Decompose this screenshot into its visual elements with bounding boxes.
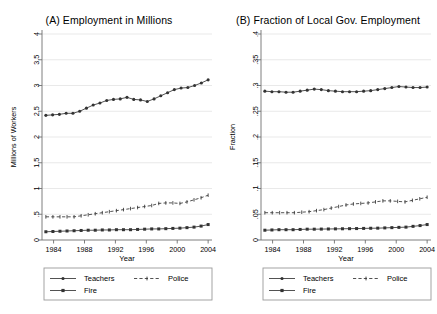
data-point xyxy=(101,228,104,231)
data-point xyxy=(180,87,183,90)
figure-employment-panels: (A) Employment in Millions 0.511.522.533… xyxy=(0,0,437,314)
legend-border xyxy=(263,268,431,300)
data-point xyxy=(108,228,111,231)
data-point xyxy=(390,86,393,89)
legend-label-police: Police xyxy=(168,274,188,283)
y-tick-label-1: .05 xyxy=(251,209,260,219)
data-point xyxy=(404,85,407,88)
data-point xyxy=(185,226,188,229)
data-point xyxy=(173,88,176,91)
y-tick-label-2: .1 xyxy=(251,186,260,192)
data-point xyxy=(327,227,330,230)
x-tick-label-0: 1984 xyxy=(265,245,281,254)
data-point xyxy=(284,91,287,94)
series-fire xyxy=(263,223,428,232)
x-tick-label-1: 1988 xyxy=(296,245,312,254)
y-tick-label-4: 2 xyxy=(32,135,41,139)
data-point xyxy=(419,86,422,89)
series-line xyxy=(46,225,208,232)
data-point xyxy=(263,229,266,232)
data-point xyxy=(299,228,302,231)
data-point xyxy=(362,227,365,230)
legend-marker-teachers xyxy=(61,277,64,280)
panel-a: (A) Employment in Millions 0.511.522.533… xyxy=(0,0,218,314)
data-point xyxy=(341,227,344,230)
data-point xyxy=(159,94,162,97)
data-point xyxy=(207,78,210,81)
data-point xyxy=(362,90,365,93)
y-axis-label: Fraction xyxy=(228,124,237,150)
data-point xyxy=(426,223,429,226)
data-point xyxy=(98,101,101,104)
data-point xyxy=(87,229,90,232)
data-point xyxy=(334,227,337,230)
data-point xyxy=(285,228,288,231)
data-point xyxy=(143,228,146,231)
y-tick-label-3: .15 xyxy=(251,158,260,168)
data-point xyxy=(426,85,429,88)
data-point xyxy=(132,98,135,101)
y-tick-label-6: 3 xyxy=(32,84,41,88)
x-tick-label-2: 1992 xyxy=(107,245,123,254)
data-point xyxy=(348,90,351,93)
data-point xyxy=(125,96,128,99)
data-point xyxy=(397,226,400,229)
y-tick-label-6: .3 xyxy=(251,83,260,89)
legend-label-fire: Fire xyxy=(303,286,316,295)
y-tick-label-8: 4 xyxy=(32,32,41,36)
legend-border xyxy=(44,268,212,300)
data-point xyxy=(327,89,330,92)
panel-a-plot: 0.511.522.533.54198419881992199620002004… xyxy=(0,0,218,314)
data-point xyxy=(92,104,95,107)
data-point xyxy=(139,98,142,101)
x-tick-label-0: 1984 xyxy=(46,245,62,254)
data-point xyxy=(146,100,149,103)
data-point xyxy=(112,98,115,101)
data-point xyxy=(383,226,386,229)
data-point xyxy=(341,90,344,93)
legend-label-police: Police xyxy=(387,274,407,283)
y-tick-label-4: .2 xyxy=(251,134,260,140)
y-tick-label-0: 0 xyxy=(251,238,260,242)
x-tick-label-3: 1996 xyxy=(357,245,373,254)
series-line xyxy=(265,225,427,231)
panel-b-plot: 0.05.1.15.2.25.3.35.41984198819921996200… xyxy=(219,0,437,314)
data-point xyxy=(150,227,153,230)
data-point xyxy=(277,228,280,231)
data-point xyxy=(348,227,351,230)
data-point xyxy=(152,97,155,100)
x-tick-label-4: 2000 xyxy=(388,245,404,254)
data-point xyxy=(71,112,74,115)
data-point xyxy=(292,91,295,94)
x-tick-label-5: 2004 xyxy=(419,245,435,254)
y-tick-label-0: 0 xyxy=(32,238,41,242)
data-point xyxy=(200,81,203,84)
data-point xyxy=(200,225,203,228)
data-point xyxy=(85,107,88,110)
series-teachers xyxy=(263,85,428,94)
data-point xyxy=(270,228,273,231)
x-tick-label-5: 2004 xyxy=(200,245,216,254)
x-tick-label-2: 1992 xyxy=(326,245,342,254)
data-point xyxy=(355,90,358,93)
y-tick-label-2: 1 xyxy=(32,187,41,191)
data-point xyxy=(115,228,118,231)
data-point xyxy=(270,90,273,93)
data-point xyxy=(78,110,81,113)
data-point xyxy=(171,227,174,230)
y-axis-label: Millions of Workers xyxy=(9,106,18,167)
data-point xyxy=(51,113,54,116)
data-point xyxy=(397,85,400,88)
data-point xyxy=(164,227,167,230)
y-tick-label-3: 1.5 xyxy=(32,158,41,168)
y-tick-label-7: 3.5 xyxy=(32,55,41,65)
data-point xyxy=(376,227,379,230)
data-point xyxy=(334,90,337,93)
data-point xyxy=(306,89,309,92)
y-tick-label-5: .25 xyxy=(251,106,260,116)
legend-marker-teachers xyxy=(280,277,283,280)
data-point xyxy=(58,230,61,233)
data-point xyxy=(44,114,47,117)
data-point xyxy=(313,228,316,231)
panel-b: (B) Fraction of Local Gov. Employment 0.… xyxy=(219,0,437,314)
